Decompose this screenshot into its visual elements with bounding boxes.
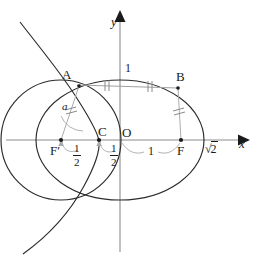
measure-label-sqrt2: √2 bbox=[205, 142, 218, 157]
point-dot-f2 bbox=[59, 138, 63, 142]
origin-label: O bbox=[122, 126, 131, 139]
point-label-f: F bbox=[177, 144, 184, 157]
radicand: 2 bbox=[211, 141, 218, 156]
point-label-a: A bbox=[62, 68, 71, 81]
point-label-b: B bbox=[176, 70, 185, 83]
measure-label-c-o: 1 2 bbox=[110, 143, 118, 168]
measure-label-f2-c: 1 2 bbox=[73, 143, 81, 168]
chord-ab bbox=[77, 85, 178, 88]
point-dot-b bbox=[176, 86, 180, 90]
measure-label-o-f: 1 bbox=[148, 145, 154, 157]
y-axis-label: y bbox=[111, 15, 117, 28]
angle-alpha-label: a bbox=[62, 101, 68, 112]
measure-label-ab: 1 bbox=[125, 62, 131, 74]
point-label-c: C bbox=[98, 125, 107, 138]
conic-branch-curve bbox=[20, 22, 99, 254]
point-label-f-prime: F′ bbox=[50, 144, 60, 157]
fraction-numerator: 1 bbox=[110, 143, 118, 155]
point-dot-f bbox=[179, 138, 183, 142]
point-dot-a bbox=[77, 84, 81, 88]
tick-ab-right bbox=[148, 81, 152, 92]
fraction-denominator: 2 bbox=[73, 157, 81, 169]
x-axis-label: x bbox=[239, 137, 245, 150]
fraction-numerator: 1 bbox=[73, 143, 81, 155]
fraction-denominator: 2 bbox=[110, 157, 118, 169]
geometry-figure: y x O A B C F′ F a 1 1 2 1 2 1 √2 bbox=[0, 0, 258, 265]
